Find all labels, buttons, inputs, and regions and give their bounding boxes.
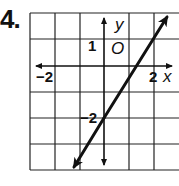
x-tick-label-neg2: −2 bbox=[36, 68, 53, 85]
x-tick-label-2: 2 bbox=[149, 68, 157, 85]
y-tick-label-1: 1 bbox=[88, 37, 96, 54]
y-axis-label: y bbox=[114, 15, 125, 34]
coordinate-graph: y O 1 −2 2 x −2 bbox=[0, 0, 179, 186]
y-tick-label-neg2: −2 bbox=[80, 109, 97, 126]
x-axis-label: x bbox=[162, 67, 172, 86]
origin-label: O bbox=[111, 39, 124, 58]
